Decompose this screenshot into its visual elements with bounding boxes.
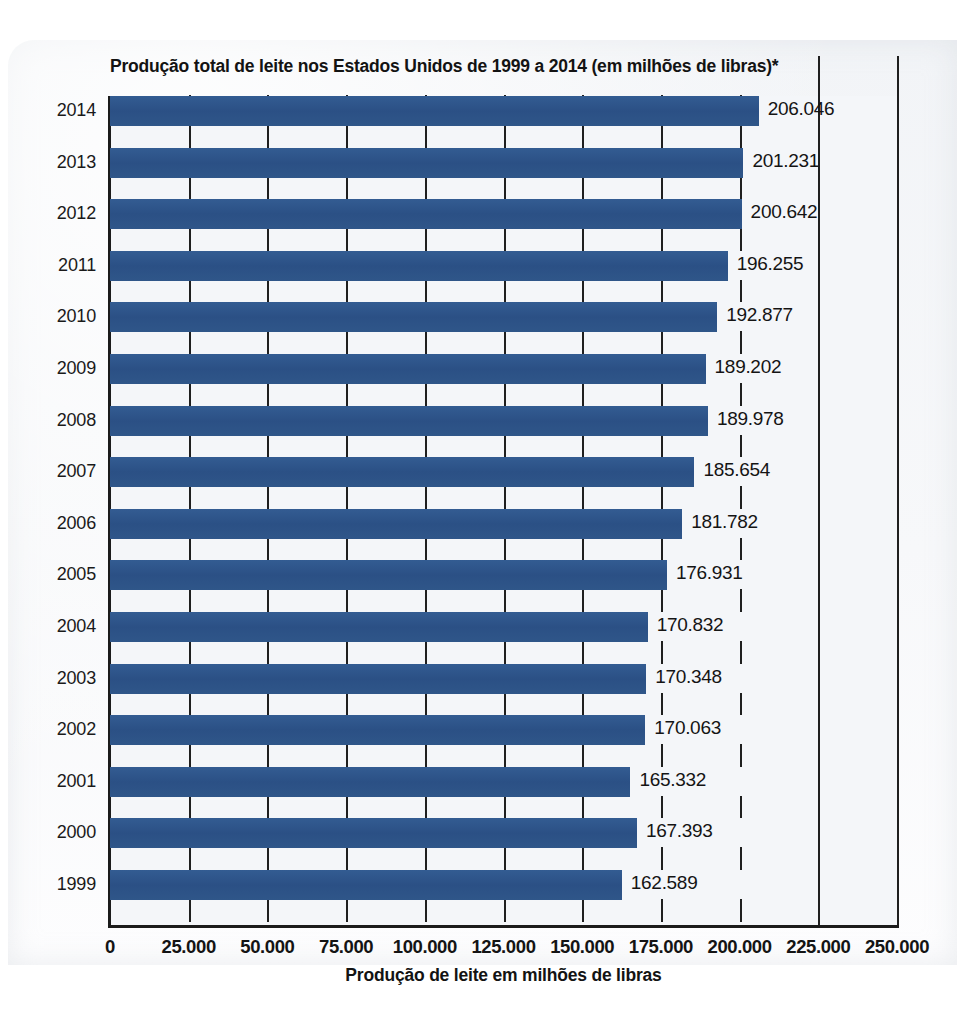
bar[interactable] bbox=[110, 302, 717, 332]
grid-tick bbox=[189, 538, 191, 561]
grid-tick bbox=[267, 280, 269, 303]
bar[interactable] bbox=[110, 96, 759, 126]
grid-tick bbox=[425, 693, 427, 716]
bar[interactable] bbox=[110, 664, 646, 694]
bar-row: 189.978 bbox=[110, 406, 897, 436]
grid-tick bbox=[346, 847, 348, 870]
bar-value-label: 170.348 bbox=[655, 666, 722, 688]
bar[interactable] bbox=[110, 406, 708, 436]
grid-tick bbox=[582, 331, 584, 354]
grid-tick bbox=[346, 435, 348, 458]
grid-tick bbox=[661, 899, 663, 922]
grid-tick bbox=[267, 228, 269, 251]
grid-tick bbox=[425, 125, 427, 148]
grid-tick bbox=[189, 641, 191, 664]
bar-row: 170.348 bbox=[110, 664, 897, 694]
bar-value-label: 189.978 bbox=[717, 408, 784, 430]
bar-row: 201.231 bbox=[110, 148, 897, 178]
grid-tick bbox=[267, 435, 269, 458]
bar-row: 176.931 bbox=[110, 560, 897, 590]
x-axis-line bbox=[108, 925, 899, 928]
bar[interactable] bbox=[110, 354, 706, 384]
bar-row: 181.782 bbox=[110, 509, 897, 539]
grid-tick bbox=[661, 177, 663, 200]
grid-tick bbox=[346, 177, 348, 200]
bar[interactable] bbox=[110, 199, 742, 229]
grid-tick bbox=[425, 796, 427, 819]
bar[interactable] bbox=[110, 457, 694, 487]
grid-tick bbox=[189, 847, 191, 870]
grid-tick bbox=[267, 899, 269, 922]
grid-tick bbox=[504, 538, 506, 561]
grid-tick bbox=[740, 899, 742, 922]
bar[interactable] bbox=[110, 560, 667, 590]
grid-tick bbox=[504, 177, 506, 200]
grid-tick bbox=[346, 280, 348, 303]
grid-tick bbox=[661, 589, 663, 612]
grid-tick bbox=[189, 486, 191, 509]
grid-tick bbox=[504, 899, 506, 922]
grid-tick bbox=[189, 899, 191, 922]
grid-tick bbox=[504, 383, 506, 406]
grid-tick bbox=[504, 486, 506, 509]
grid-tick bbox=[267, 331, 269, 354]
grid-tick bbox=[346, 383, 348, 406]
grid-tick bbox=[740, 280, 742, 303]
y-axis-tick-label: 2010 bbox=[30, 306, 96, 327]
y-axis-tick-label: 2012 bbox=[30, 203, 96, 224]
grid-tick bbox=[346, 486, 348, 509]
grid-tick bbox=[425, 383, 427, 406]
grid-tick bbox=[425, 177, 427, 200]
grid-tick bbox=[661, 796, 663, 819]
bar[interactable] bbox=[110, 767, 630, 797]
grid-tick bbox=[189, 280, 191, 303]
bar[interactable] bbox=[110, 509, 682, 539]
bar[interactable] bbox=[110, 148, 743, 178]
grid-tick bbox=[740, 486, 742, 509]
grid-tick bbox=[582, 899, 584, 922]
grid-tick bbox=[740, 641, 742, 664]
y-axis-tick-label: 2005 bbox=[30, 564, 96, 585]
grid-tick bbox=[582, 435, 584, 458]
grid-tick bbox=[740, 435, 742, 458]
grid-tick bbox=[504, 125, 506, 148]
bar[interactable] bbox=[110, 818, 637, 848]
gridline bbox=[897, 56, 899, 925]
grid-tick bbox=[661, 693, 663, 716]
grid-tick bbox=[425, 744, 427, 767]
bar-row: 196.255 bbox=[110, 251, 897, 281]
grid-tick bbox=[267, 847, 269, 870]
grid-tick bbox=[504, 796, 506, 819]
grid-tick bbox=[504, 641, 506, 664]
grid-tick bbox=[582, 538, 584, 561]
grid-tick bbox=[346, 899, 348, 922]
grid-tick bbox=[189, 383, 191, 406]
y-axis-tick-label: 2011 bbox=[30, 255, 96, 276]
grid-tick bbox=[267, 177, 269, 200]
grid-tick bbox=[661, 280, 663, 303]
bar-value-label: 170.063 bbox=[654, 717, 721, 739]
grid-tick bbox=[582, 177, 584, 200]
grid-tick bbox=[661, 847, 663, 870]
bar[interactable] bbox=[110, 251, 728, 281]
bar[interactable] bbox=[110, 870, 622, 900]
grid-tick bbox=[189, 693, 191, 716]
grid-tick bbox=[582, 125, 584, 148]
grid-tick bbox=[582, 589, 584, 612]
grid-tick bbox=[661, 486, 663, 509]
grid-tick bbox=[661, 125, 663, 148]
grid-tick bbox=[582, 744, 584, 767]
y-axis-tick-label: 2006 bbox=[30, 513, 96, 534]
bar-row: 185.654 bbox=[110, 457, 897, 487]
grid-tick bbox=[504, 693, 506, 716]
bar[interactable] bbox=[110, 715, 645, 745]
y-axis-tick-label: 2008 bbox=[30, 410, 96, 431]
grid-tick bbox=[740, 796, 742, 819]
grid-tick bbox=[504, 847, 506, 870]
grid-tick bbox=[267, 125, 269, 148]
grid-tick bbox=[740, 744, 742, 767]
grid-tick bbox=[740, 331, 742, 354]
grid-tick bbox=[425, 228, 427, 251]
bar[interactable] bbox=[110, 612, 648, 642]
y-axis-tick-label: 2004 bbox=[30, 616, 96, 637]
